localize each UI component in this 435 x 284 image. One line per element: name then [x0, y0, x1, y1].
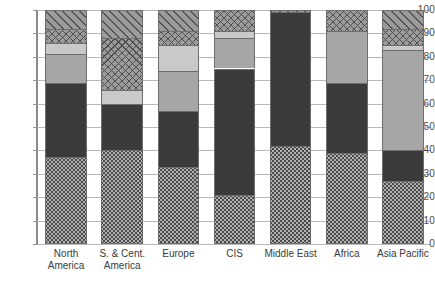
category-label-line: Asia Pacific — [375, 248, 431, 260]
category-label-africa: Africa — [319, 248, 375, 260]
segment-coal[interactable] — [214, 38, 256, 68]
segment-oil[interactable] — [270, 146, 312, 244]
segment-hydro[interactable] — [45, 29, 87, 43]
segment-coal[interactable] — [158, 71, 200, 111]
segment-oil[interactable] — [382, 181, 424, 244]
category-label-line: S. & Cent. — [94, 248, 150, 260]
category-label-s-cent-america: S. & Cent.America — [94, 248, 150, 272]
segment-hydro[interactable] — [382, 29, 424, 45]
bar-middle-east[interactable] — [270, 10, 312, 244]
segment-oil[interactable] — [214, 195, 256, 244]
category-label-line: CIS — [206, 248, 262, 260]
segment-oil[interactable] — [158, 167, 200, 244]
segment-renewables[interactable] — [270, 10, 312, 12]
segment-hydro[interactable] — [158, 31, 200, 45]
segment-renewables[interactable] — [45, 10, 87, 29]
segment-nuclear[interactable] — [101, 90, 143, 104]
bar-europe[interactable] — [158, 10, 200, 244]
segment-nuclear[interactable] — [382, 45, 424, 50]
segment-renewables[interactable] — [101, 10, 143, 38]
segment-oil[interactable] — [326, 153, 368, 244]
bar-cis[interactable] — [214, 10, 256, 244]
gridline-0 — [38, 244, 431, 245]
segment-natural-gas[interactable] — [326, 83, 368, 153]
segment-oil[interactable] — [45, 157, 87, 244]
category-label-europe: Europe — [150, 248, 206, 260]
category-label-line: North — [38, 248, 94, 260]
segment-natural-gas[interactable] — [158, 111, 200, 167]
category-label-cis: CIS — [206, 248, 262, 260]
bar-africa[interactable] — [326, 10, 368, 244]
segment-natural-gas[interactable] — [101, 104, 143, 151]
segment-natural-gas[interactable] — [270, 12, 312, 145]
segment-coal[interactable] — [382, 50, 424, 151]
segment-hydro[interactable] — [214, 10, 256, 31]
bar-asia-pacific[interactable] — [382, 10, 424, 244]
segment-coal[interactable] — [326, 31, 368, 82]
segment-hydro[interactable] — [326, 10, 368, 31]
segment-nuclear[interactable] — [45, 43, 87, 55]
category-label-line: Africa — [319, 248, 375, 260]
segment-nuclear[interactable] — [158, 45, 200, 71]
y-tick-mark-0 — [33, 244, 38, 245]
category-label-asia-pacific: Asia Pacific — [375, 248, 431, 260]
category-label-middle-east: Middle East — [263, 248, 319, 260]
segment-oil[interactable] — [101, 150, 143, 244]
segment-renewables[interactable] — [382, 10, 424, 29]
bar-s-cent-america[interactable] — [101, 10, 143, 244]
segment-hydro[interactable] — [101, 38, 143, 89]
bar-north-america[interactable] — [45, 10, 87, 244]
segment-renewables[interactable] — [158, 10, 200, 31]
stacked-bar-chart: 0102030405060708090100 NorthAmericaS. & … — [0, 0, 435, 284]
category-label-line: America — [94, 260, 150, 272]
segment-natural-gas[interactable] — [382, 150, 424, 180]
segment-natural-gas[interactable] — [214, 69, 256, 195]
segment-nuclear[interactable] — [214, 31, 256, 38]
plot-area — [38, 10, 431, 244]
category-label-line: Middle East — [263, 248, 319, 260]
segment-coal[interactable] — [45, 54, 87, 82]
category-label-line: Europe — [150, 248, 206, 260]
category-label-north-america: NorthAmerica — [38, 248, 94, 272]
segment-natural-gas[interactable] — [45, 83, 87, 158]
category-label-line: America — [38, 260, 94, 272]
